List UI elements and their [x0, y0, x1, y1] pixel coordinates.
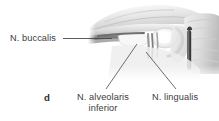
anatomy-figure-panel: N. buccalis N. alveolaris inferior N. li… — [0, 0, 219, 121]
label-n-buccalis: N. buccalis — [10, 33, 56, 44]
label-n-alveolaris-inferior-line1: N. alveolaris — [77, 92, 129, 102]
label-n-alveolaris-inferior-line2: inferior — [89, 103, 118, 113]
anatomy-photograph — [88, 0, 219, 80]
label-n-lingualis: N. lingualis — [152, 92, 198, 103]
label-n-alveolaris-inferior: N. alveolaris inferior — [67, 92, 139, 113]
anatomy-photograph-graphic — [88, 0, 219, 80]
figure-letter-label: d — [44, 92, 50, 103]
